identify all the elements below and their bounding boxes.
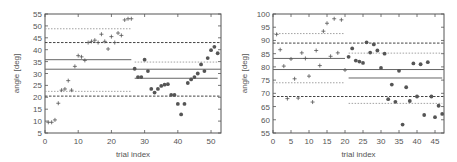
- x-tick-label: 35: [395, 137, 404, 146]
- circle-marker: [159, 84, 163, 88]
- circle-marker: [189, 78, 193, 82]
- circle-marker: [379, 66, 383, 70]
- plus-marker: [314, 48, 318, 52]
- circle-marker: [202, 69, 206, 73]
- plus-marker: [343, 68, 347, 72]
- x-tick-label: 50: [207, 137, 216, 146]
- y-tick-label: 25: [33, 81, 42, 90]
- x-tick-label: 20: [107, 137, 116, 146]
- x-tick-label: 5: [289, 137, 294, 146]
- plus-marker: [66, 79, 70, 83]
- plus-marker: [282, 64, 286, 68]
- y-tick-label: 65: [261, 103, 270, 112]
- plus-marker: [285, 97, 289, 101]
- plus-marker: [73, 64, 77, 68]
- y-tick-label: 20: [33, 93, 42, 102]
- circle-marker: [354, 59, 358, 63]
- plus-marker: [119, 33, 123, 37]
- circle-marker: [386, 97, 390, 101]
- plus-marker: [278, 48, 282, 52]
- plus-marker: [339, 18, 343, 22]
- y-tick-label: 100: [257, 10, 271, 19]
- x-axis-label: trial index: [116, 150, 150, 159]
- circle-marker: [401, 123, 405, 127]
- plus-marker: [296, 96, 300, 100]
- x-tick-label: 10: [74, 137, 83, 146]
- circle-marker: [176, 102, 180, 106]
- y-tick-label: 90: [261, 36, 270, 45]
- x-tick-label: 0: [43, 137, 48, 146]
- plus-marker: [53, 118, 57, 122]
- circle-marker: [437, 104, 441, 108]
- circle-marker: [412, 62, 416, 66]
- plus-marker: [275, 32, 279, 36]
- circle-marker: [196, 72, 200, 76]
- circle-marker: [212, 45, 216, 49]
- circle-marker: [383, 52, 387, 56]
- y-tick-label: 35: [33, 58, 42, 67]
- circle-marker: [169, 93, 173, 97]
- y-tick-label: 70: [261, 89, 270, 98]
- y-tick-label: 30: [33, 70, 42, 79]
- x-tick-label: 40: [173, 137, 182, 146]
- x-tick-label: 30: [377, 137, 386, 146]
- circle-marker: [422, 113, 426, 117]
- x-tick-label: 0: [271, 137, 276, 146]
- chart-canvas: 51015202530354045505501020304050trial in…: [0, 0, 457, 162]
- plot-frame: [45, 14, 221, 133]
- circle-marker: [358, 60, 362, 64]
- circle-marker: [440, 112, 444, 116]
- y-tick-label: 80: [261, 63, 270, 72]
- circle-marker: [397, 69, 401, 73]
- left-plot: 51015202530354045505501020304050trial in…: [12, 10, 221, 159]
- x-tick-label: 30: [140, 137, 149, 146]
- y-tick-label: 45: [33, 34, 42, 43]
- circle-marker: [372, 43, 376, 47]
- circle-marker: [186, 81, 190, 85]
- x-tick-label: 15: [323, 137, 332, 146]
- circle-marker: [139, 75, 143, 79]
- plus-marker: [325, 21, 329, 25]
- plus-marker: [336, 51, 340, 55]
- plus-marker: [96, 41, 100, 45]
- circle-marker: [347, 55, 351, 59]
- circle-marker: [216, 51, 220, 55]
- circle-marker: [426, 60, 430, 64]
- plus-marker: [56, 101, 60, 105]
- plus-marker: [311, 100, 315, 104]
- circle-marker: [166, 82, 170, 86]
- x-tick-label: 40: [413, 137, 422, 146]
- circle-marker: [368, 51, 372, 55]
- plus-marker: [106, 47, 110, 51]
- circle-marker: [361, 61, 365, 65]
- plus-marker: [318, 64, 322, 68]
- plus-marker: [321, 29, 325, 33]
- circle-marker: [404, 85, 408, 89]
- y-tick-label: 85: [261, 50, 270, 59]
- plus-marker: [116, 31, 120, 35]
- x-tick-label: 20: [341, 137, 350, 146]
- y-tick-label: 55: [33, 10, 42, 19]
- y-tick-label: 40: [33, 46, 42, 55]
- circle-marker: [146, 69, 150, 73]
- circle-marker: [430, 95, 434, 99]
- y-axis-label: angle [deg]: [12, 54, 21, 94]
- circle-marker: [193, 75, 197, 79]
- circle-marker: [136, 75, 140, 79]
- y-tick-label: 55: [261, 129, 270, 138]
- circle-marker: [390, 83, 394, 87]
- plus-marker: [300, 51, 304, 55]
- x-tick-label: 45: [431, 137, 440, 146]
- plus-marker: [332, 17, 336, 21]
- circle-marker: [419, 62, 423, 66]
- circle-marker: [365, 40, 369, 44]
- circle-marker: [143, 58, 147, 62]
- circle-marker: [350, 46, 354, 50]
- x-tick-label: 10: [305, 137, 314, 146]
- plot-frame: [273, 14, 444, 133]
- plus-marker: [329, 54, 333, 58]
- y-tick-label: 10: [33, 117, 42, 126]
- circle-marker: [183, 102, 187, 106]
- circle-marker: [173, 93, 177, 97]
- plus-marker: [303, 56, 307, 60]
